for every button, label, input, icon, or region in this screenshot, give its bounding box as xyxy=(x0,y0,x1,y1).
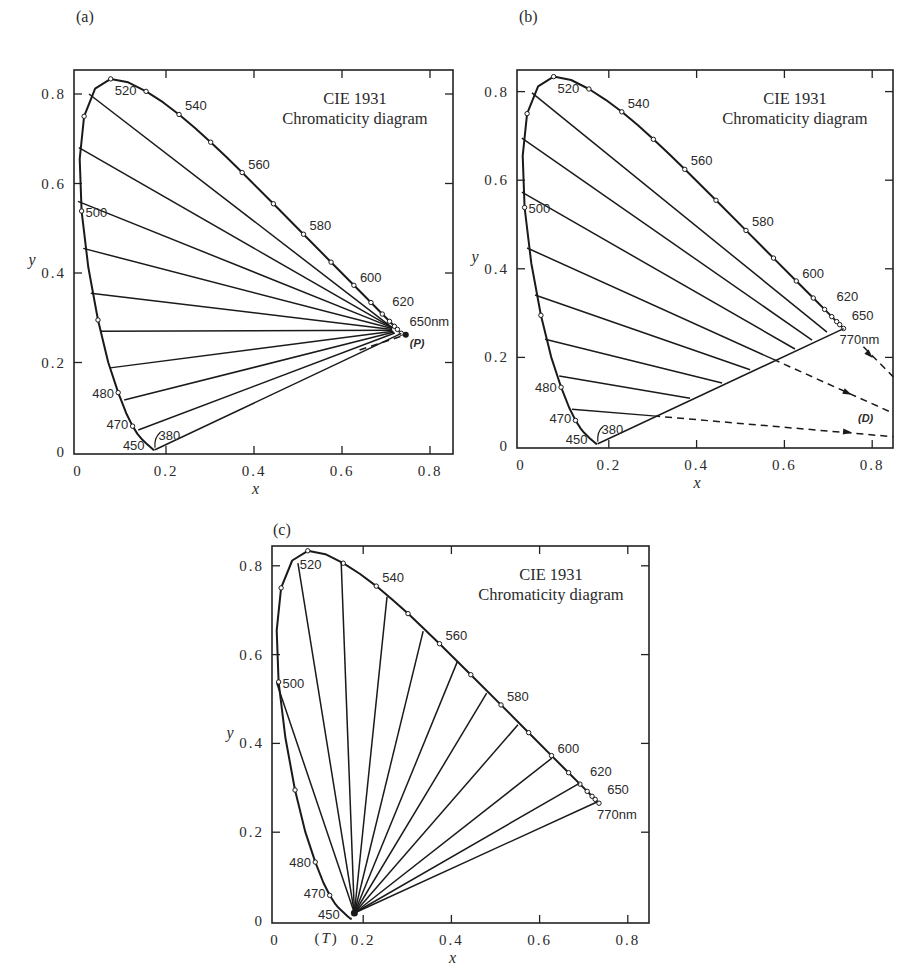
point-p-marker xyxy=(403,332,409,338)
wavelength-marker xyxy=(539,313,543,317)
arrowhead-icon xyxy=(842,388,853,397)
wavelength-marker xyxy=(279,586,283,590)
wavelength-marker xyxy=(79,209,83,213)
x-tick-label: 0.4 xyxy=(684,457,709,473)
wavelength-label-620: 620 xyxy=(837,289,859,304)
wavelength-marker xyxy=(209,140,213,144)
wavelength-marker xyxy=(559,385,563,389)
wavelength-label-540: 540 xyxy=(185,98,207,113)
tie-line xyxy=(598,329,844,444)
y-tick-label: 0.8 xyxy=(239,558,264,574)
x-tick-label: 0.8 xyxy=(860,457,885,473)
y-axis-label: y xyxy=(469,248,479,266)
wavelength-marker xyxy=(82,114,86,118)
wavelength-label-650: 650 xyxy=(852,308,874,323)
panel-a-chromaticity-diagram: (a)00.20.40.60.800.20.40.60.8xyCIE 1931C… xyxy=(0,0,924,973)
wavelength-marker xyxy=(744,228,748,232)
wavelength-marker xyxy=(437,642,441,646)
point-t-label: (T) xyxy=(314,930,338,947)
wavelength-marker xyxy=(301,232,305,236)
wavelength-marker xyxy=(549,753,553,757)
wavelength-label-620: 620 xyxy=(392,294,414,309)
wavelength-label-520: 520 xyxy=(115,83,137,98)
y-tick-label: 0 xyxy=(255,913,265,929)
wavelength-label-450: 450 xyxy=(566,432,588,447)
y-tick-label: 0.4 xyxy=(41,265,66,281)
tie-line xyxy=(78,201,392,327)
wavelength-marker xyxy=(352,283,356,287)
wavelength-label-500: 500 xyxy=(529,201,551,216)
wavelength-marker xyxy=(811,296,815,300)
wavelength-marker xyxy=(369,300,373,304)
point-p-label: (P) xyxy=(410,337,425,349)
x-tick-label: 0.2 xyxy=(351,932,376,948)
y-tick-label: 0.6 xyxy=(239,647,264,663)
diagram-title: CIE 1931 xyxy=(763,89,827,108)
y-tick-label: 0.4 xyxy=(239,735,264,751)
tie-line xyxy=(354,783,579,913)
x-tick-label: 0.2 xyxy=(596,457,621,473)
wavelength-marker xyxy=(469,673,473,677)
wavelength-label-770: 770nm xyxy=(840,332,880,347)
wavelength-marker xyxy=(714,198,718,202)
wavelength-marker xyxy=(499,703,503,707)
tie-line xyxy=(527,248,773,359)
wavelength-marker xyxy=(313,860,317,864)
spectral-locus-curve xyxy=(523,77,844,444)
spectral-locus-curve xyxy=(80,79,402,450)
wavelength-marker xyxy=(144,89,148,93)
tie-line xyxy=(354,725,518,913)
y-tick-label: 0 xyxy=(57,444,67,460)
wavelength-label-580: 580 xyxy=(507,689,529,704)
wavelength-marker xyxy=(130,424,134,428)
wavelength-label-480: 480 xyxy=(92,386,114,401)
wavelength-label-600: 600 xyxy=(360,270,382,285)
wavelength-marker xyxy=(96,318,100,322)
wavelength-marker xyxy=(573,418,577,422)
wavelength-label-500: 500 xyxy=(86,205,108,220)
cie-chromaticity-figure: (a)00.20.40.60.800.20.40.60.8xyCIE 1931C… xyxy=(0,0,924,973)
wavelength-marker xyxy=(328,893,332,897)
point-t-letter: T xyxy=(321,930,331,946)
wavelength-marker xyxy=(525,111,529,115)
tie-line xyxy=(522,138,812,340)
y-tick-label: 0.2 xyxy=(484,349,509,365)
figure-caption xyxy=(110,958,910,972)
tie-line xyxy=(545,339,722,383)
wavelength-marker xyxy=(771,256,775,260)
wavelength-label-520: 520 xyxy=(558,81,580,96)
wavelength-marker xyxy=(108,77,112,81)
wavelength-label-650: 650 xyxy=(607,782,629,797)
tie-line xyxy=(277,683,355,913)
panel-label: (c) xyxy=(273,521,291,539)
diagram-subtitle: Chromaticity diagram xyxy=(478,585,623,604)
y-axis-label: y xyxy=(26,251,36,269)
wavelength-marker xyxy=(380,312,384,316)
wavelength-marker xyxy=(587,87,591,91)
x-tick-label: 0.6 xyxy=(330,463,355,479)
panel-label: (a) xyxy=(76,8,94,26)
wavelength-label-650: 650nm xyxy=(409,314,449,329)
wavelength-label-450: 450 xyxy=(123,438,145,453)
wavelength-marker xyxy=(822,307,826,311)
tie-line xyxy=(83,248,392,328)
arrowhead-icon xyxy=(843,429,852,436)
wavelength-label-450: 450 xyxy=(318,907,340,922)
y-tick-label: 0 xyxy=(500,438,510,454)
x-tick-label: 0.4 xyxy=(242,463,267,479)
tie-line xyxy=(124,332,394,400)
diagram-subtitle: Chromaticity diagram xyxy=(282,109,427,128)
wavelength-marker xyxy=(593,797,597,801)
x-tick-label: 0.6 xyxy=(527,932,552,948)
y-tick-label: 0.2 xyxy=(239,824,264,840)
wavelength-marker xyxy=(597,801,601,805)
panel-b: (b)00.20.40.60.800.20.40.60.8xyCIE 1931C… xyxy=(469,8,893,491)
wavelength-label-560: 560 xyxy=(446,628,468,643)
y-tick-label: 0.8 xyxy=(484,84,509,100)
wavelength-marker xyxy=(177,112,181,116)
diagram-subtitle: Chromaticity diagram xyxy=(722,109,867,128)
wavelength-marker xyxy=(306,549,310,553)
panel-a: (a)00.20.40.60.800.20.40.60.8xyCIE 1931C… xyxy=(26,8,453,497)
wavelength-label-560: 560 xyxy=(248,157,270,172)
tie-line xyxy=(100,330,392,331)
